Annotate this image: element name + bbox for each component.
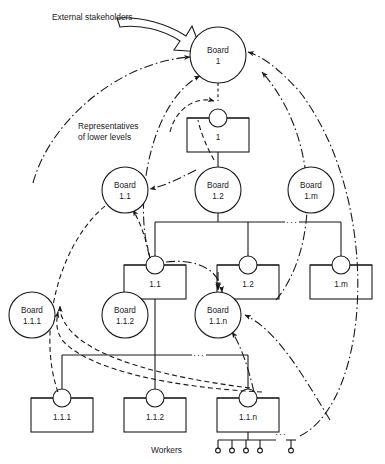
diagram-root: Board 1 Board 1.1 Board 1.2 Board 1.m Bo bbox=[0, 0, 385, 464]
external-stakeholders-arrow bbox=[117, 18, 202, 52]
cross-level-links bbox=[33, 52, 358, 436]
board-node-1[interactable]: Board 1 bbox=[190, 27, 246, 83]
unit-box-1-1-1 bbox=[31, 389, 93, 432]
label-workers: Workers bbox=[151, 445, 182, 455]
unit-label-1-1-1: 1.1.1 bbox=[53, 413, 72, 422]
board-node-1-1-n[interactable]: Board 1.1.n bbox=[195, 292, 241, 338]
board-1-line2: 1 bbox=[216, 57, 221, 66]
board-1-m-line2: 1.m bbox=[304, 192, 318, 201]
ellipsis-row2: ··· bbox=[286, 217, 298, 227]
label-external-stakeholders: External stakeholders bbox=[52, 12, 133, 22]
unit-label-1-2: 1.2 bbox=[242, 280, 254, 289]
board-1-m-line1: Board bbox=[300, 181, 322, 190]
board-1-2-line1: Board bbox=[207, 181, 229, 190]
label-representatives-line2: of lower levels bbox=[78, 132, 131, 142]
board-1-1-line1: Board bbox=[114, 181, 136, 190]
label-representatives-line1: Representatives bbox=[78, 121, 139, 131]
board-1-1-n-line1: Board bbox=[207, 306, 229, 315]
board-1-1-1-line2: 1.1.1 bbox=[23, 317, 42, 326]
unit-box-1 bbox=[187, 109, 249, 152]
board-node-1-1-2[interactable]: Board 1.1.2 bbox=[102, 292, 148, 338]
board-1-2-line2: 1.2 bbox=[212, 192, 224, 201]
board-1-1-n-line2: 1.1.n bbox=[209, 317, 228, 326]
board-node-1-1[interactable]: Board 1.1 bbox=[102, 167, 148, 213]
board-node-1-m[interactable]: Board 1.m bbox=[288, 167, 334, 213]
ellipsis-workers: ··· bbox=[275, 429, 287, 439]
organization-linking-pin-diagram: Board 1 Board 1.1 Board 1.2 Board 1.m Bo bbox=[0, 0, 385, 464]
board-1-line1: Board bbox=[207, 46, 229, 55]
unit-label-1-1-n: 1.1.n bbox=[239, 413, 258, 422]
unit-box-1-1-2 bbox=[124, 389, 186, 432]
unit-box-1-1 bbox=[124, 256, 186, 299]
board-1-1-1-line1: Board bbox=[21, 306, 43, 315]
unit-box-1-m bbox=[310, 256, 372, 299]
unit-label-1-1: 1.1 bbox=[149, 280, 161, 289]
board-1-1-line2: 1.1 bbox=[119, 192, 131, 201]
ellipsis-row3: ··· bbox=[193, 350, 205, 360]
unit-label-1-1-2: 1.1.2 bbox=[146, 413, 165, 422]
board-1-1-2-line1: Board bbox=[114, 306, 136, 315]
unit-label-1: 1 bbox=[216, 133, 221, 142]
unit-box-1-2 bbox=[217, 256, 279, 299]
board-1-1-2-line2: 1.1.2 bbox=[116, 317, 135, 326]
unit-box-1-1-n bbox=[217, 389, 279, 432]
unit-label-1-m: 1.m bbox=[334, 280, 348, 289]
board-node-1-2[interactable]: Board 1.2 bbox=[195, 167, 241, 213]
board-node-1-1-1[interactable]: Board 1.1.1 bbox=[9, 292, 55, 338]
